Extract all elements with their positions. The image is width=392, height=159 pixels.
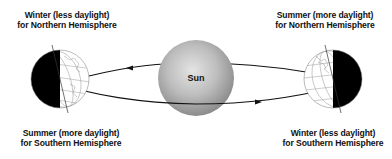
arrow-left-icon	[126, 66, 133, 71]
orbit-diagram: Sun	[0, 0, 392, 159]
sun: Sun	[158, 40, 234, 116]
earth-right	[304, 45, 362, 113]
earth-left	[31, 45, 90, 113]
sun-label: Sun	[188, 73, 205, 83]
